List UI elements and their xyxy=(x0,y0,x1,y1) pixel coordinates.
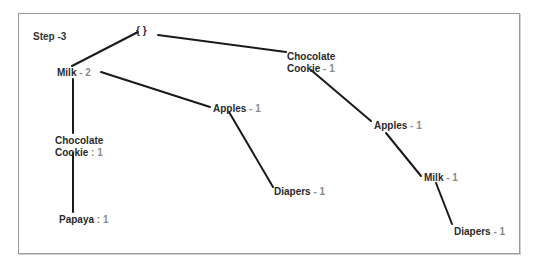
node-count: : 1 xyxy=(88,147,102,158)
node-label: Apples xyxy=(374,120,407,131)
tree-node-milk_2: Milk - 2 xyxy=(57,67,91,79)
edge-milk_1-to-diapers_1_right xyxy=(436,183,452,224)
tree-node-choc_cookie_dash: ChocolateCookie - 1 xyxy=(287,51,335,75)
node-count: - 1 xyxy=(246,103,260,114)
node-label: Papaya xyxy=(59,214,94,225)
tree-node-apples_1_right: Apples - 1 xyxy=(374,120,422,132)
node-count: - 1 xyxy=(407,120,421,131)
step-title: Step -3 xyxy=(33,31,66,42)
edge-apples_1_right-to-milk_1 xyxy=(386,133,421,176)
edge-root-to-milk_2 xyxy=(72,32,138,66)
edge-milk_2-to-apples_1_left xyxy=(101,72,210,107)
node-count: - 1 xyxy=(443,172,457,183)
root-node: { } xyxy=(136,25,147,37)
node-label-line2: Cookie xyxy=(55,147,88,158)
tree-node-milk_1: Milk - 1 xyxy=(424,172,458,184)
node-label-line1: Chocolate xyxy=(287,51,335,63)
node-label: Milk xyxy=(57,67,76,78)
tree-node-papaya_1: Papaya : 1 xyxy=(59,214,108,226)
edge-apples_1_left-to-diapers_1_left xyxy=(229,112,273,187)
node-label: Apples xyxy=(213,103,246,114)
node-label: Diapers xyxy=(274,186,311,197)
edge-choc_cookie_dash-to-apples_1_right xyxy=(311,70,371,121)
node-count: - 2 xyxy=(76,67,90,78)
node-count: : 1 xyxy=(94,214,108,225)
edge-root-to-choc_cookie_dash xyxy=(158,35,286,52)
node-label: Diapers xyxy=(454,226,491,237)
node-count: - 1 xyxy=(311,186,325,197)
node-count: - 1 xyxy=(491,226,505,237)
node-label-line1: Chocolate xyxy=(55,135,103,147)
node-count: - 1 xyxy=(320,63,334,74)
node-label-line2: Cookie xyxy=(287,63,320,74)
root-label: { } xyxy=(136,25,147,36)
tree-node-diapers_1_right: Diapers - 1 xyxy=(454,226,505,238)
tree-node-diapers_1_left: Diapers - 1 xyxy=(274,186,325,198)
node-label: Milk xyxy=(424,172,443,183)
tree-node-choc_cookie_colon: ChocolateCookie : 1 xyxy=(55,135,103,159)
tree-node-apples_1_left: Apples - 1 xyxy=(213,103,261,115)
